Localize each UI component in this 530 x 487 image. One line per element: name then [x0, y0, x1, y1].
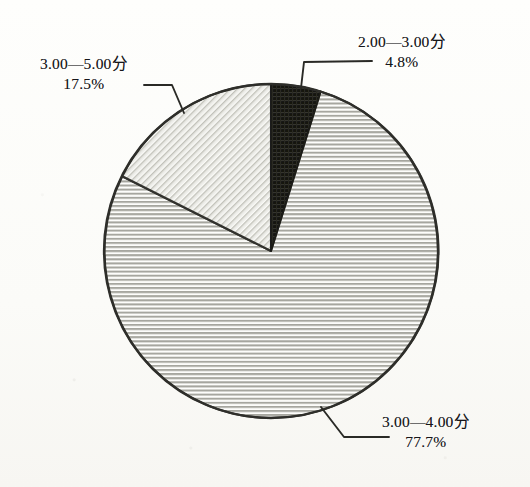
slice-label-2-to-3-name: 2.00—3.00分	[358, 32, 446, 52]
slice-label-3-to-5-name: 3.00—5.00分	[40, 54, 128, 74]
slice-label-3-to-5: 3.00—5.00分 17.5%	[40, 54, 128, 94]
slice-label-3-to-4-percent: 77.7%	[382, 432, 470, 452]
slice-label-2-to-3: 2.00—3.00分 4.8%	[358, 32, 446, 72]
slice-label-2-to-3-percent: 4.8%	[358, 52, 446, 72]
leader-line-3-to-4	[321, 407, 389, 437]
leader-line-3-to-5	[144, 85, 184, 113]
pie-chart: 2.00—3.00分 4.8% 3.00—5.00分 17.5% 3.00—4.…	[0, 0, 530, 487]
slice-label-3-to-4-name: 3.00—4.00分	[382, 412, 470, 432]
slice-label-3-to-5-percent: 17.5%	[40, 74, 128, 94]
slice-label-3-to-4: 3.00—4.00分 77.7%	[382, 412, 470, 452]
